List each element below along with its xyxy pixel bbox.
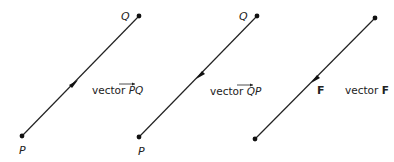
point-p <box>20 134 25 139</box>
label-p: P <box>138 145 145 158</box>
diagram-vector-f: F vector F <box>253 16 389 142</box>
point-start <box>253 137 258 142</box>
point-p <box>137 135 142 140</box>
segment-pq <box>22 16 139 136</box>
label-f: F <box>317 84 325 97</box>
caption-vector-pq: vector PQ <box>92 84 143 96</box>
arrowhead-down-left-icon <box>196 71 205 79</box>
point-q <box>137 14 142 19</box>
label-p: P <box>19 144 26 157</box>
point-q <box>255 14 260 19</box>
diagram-vector-qp: P Q vector QP <box>137 10 262 158</box>
caption-vector-f: vector F <box>345 84 389 96</box>
caption-vector-qp: vector QP <box>210 85 262 97</box>
vector-diagrams: P Q vector PQ P Q vector QP F vector F <box>0 0 394 162</box>
point-end <box>373 16 378 21</box>
label-q: Q <box>121 10 130 23</box>
diagram-vector-pq: P Q vector PQ <box>19 10 143 157</box>
label-q: Q <box>239 10 248 23</box>
arrowhead-down-left-icon <box>311 75 320 83</box>
